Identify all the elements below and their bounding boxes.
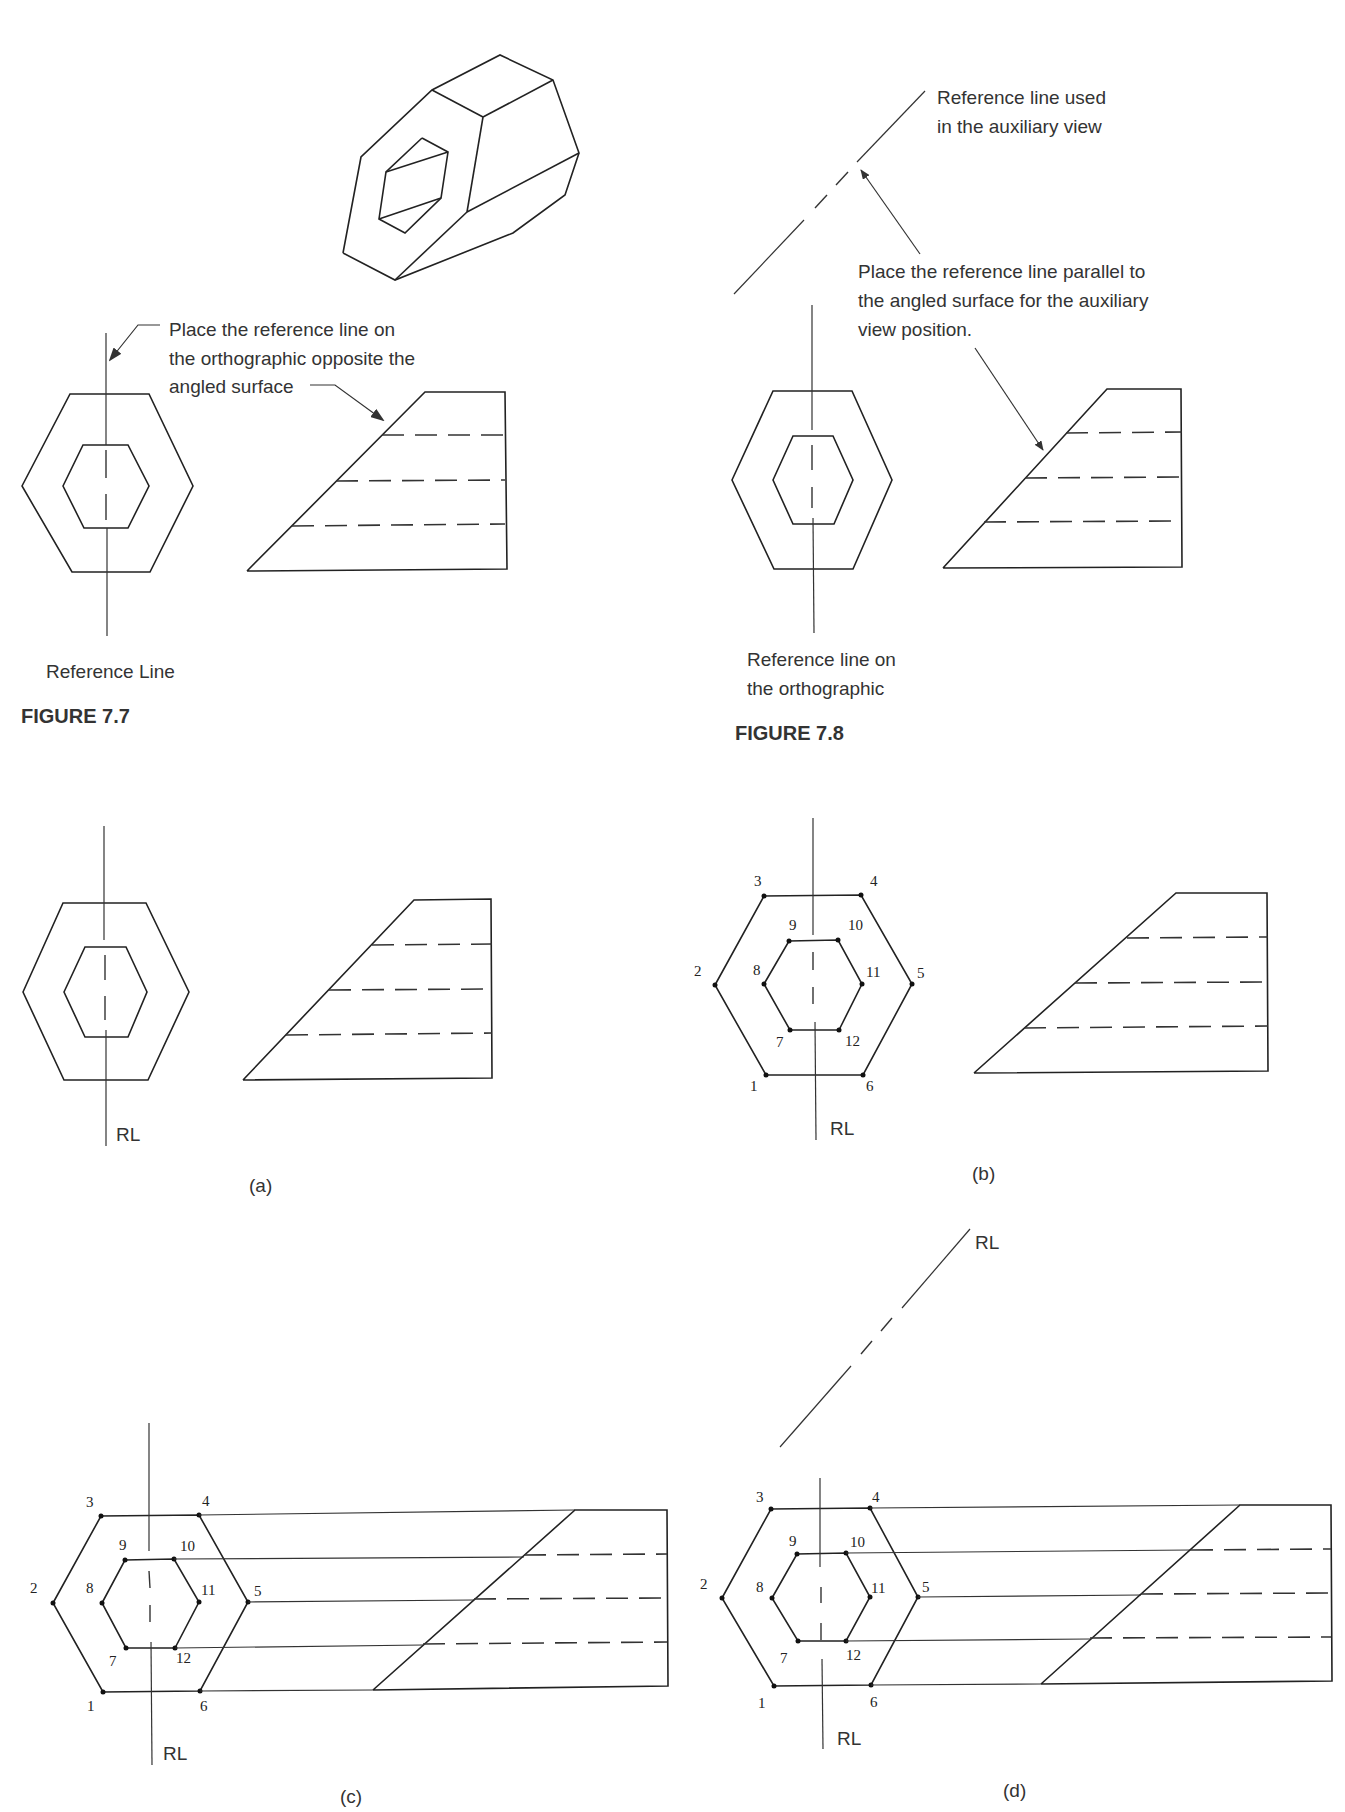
panel-b-label: (b) — [972, 1163, 995, 1185]
panel-c-point-6: 6 — [200, 1698, 208, 1715]
panel-d-aux-reference-line — [780, 1229, 970, 1447]
panel-b-point-4: 4 — [870, 873, 878, 890]
panel-d-point-11: 11 — [871, 1580, 885, 1597]
panel-c-point-9: 9 — [119, 1537, 127, 1554]
panel-b-point-9: 9 — [789, 917, 797, 934]
fig78-rl-ortho-label-line1: Reference line on — [747, 648, 896, 672]
panel-d-point-5: 5 — [922, 1579, 930, 1596]
panel-b-rl-label: RL — [830, 1118, 854, 1140]
panel-b-point-10: 10 — [848, 917, 863, 934]
isometric-hex-block — [343, 55, 579, 280]
panel-b-point-7: 7 — [776, 1034, 784, 1051]
panel-b-point-1: 1 — [750, 1078, 758, 1095]
fig78-aux-rl-label-line1: Reference line used — [937, 86, 1106, 110]
panel-d-point-2: 2 — [700, 1576, 708, 1593]
fig77-side-view — [247, 392, 507, 571]
panel-a-rl-label: RL — [116, 1124, 140, 1146]
panel-d-aux-rl-label: RL — [975, 1232, 999, 1254]
fig78-callout-line1: Place the reference line parallel to — [858, 260, 1145, 284]
fig78-callout-line3: view position. — [858, 318, 972, 342]
panel-d-point-8: 8 — [756, 1579, 764, 1596]
panel-d-front-view — [720, 1478, 921, 1749]
fig77-callout-line3: angled surface — [169, 375, 294, 399]
panel-a-side-view — [243, 899, 492, 1080]
panel-b-point-11: 11 — [866, 964, 880, 981]
panel-d-point-12: 12 — [846, 1647, 861, 1664]
panel-b-side-view — [974, 893, 1268, 1073]
panel-d-point-4: 4 — [872, 1489, 880, 1506]
panel-a-front-view — [23, 826, 189, 1146]
panel-c-point-12: 12 — [176, 1650, 191, 1667]
panel-c-rl-label: RL — [163, 1743, 187, 1765]
fig78-callout-line2: the angled surface for the auxiliary — [858, 289, 1148, 313]
fig77-callout-line2: the orthographic opposite the — [169, 347, 415, 371]
panel-b-point-12: 12 — [845, 1033, 860, 1050]
panel-c-point-3: 3 — [86, 1494, 94, 1511]
figure-7-7-caption: FIGURE 7.7 — [21, 705, 130, 728]
fig77-callout-line1: Place the reference line on — [169, 318, 395, 342]
panel-c-point-11: 11 — [201, 1582, 215, 1599]
fig78-side-view — [943, 389, 1182, 568]
panel-c-point-5: 5 — [254, 1583, 262, 1600]
fig78-rl-ortho-label-line2: the orthographic — [747, 677, 884, 701]
panel-d-side-view — [1041, 1505, 1332, 1684]
panel-d-point-10: 10 — [850, 1534, 865, 1551]
panel-d-projectors — [846, 1505, 1240, 1685]
panel-d-point-9: 9 — [789, 1533, 797, 1550]
fig78-aux-rl-label-line2: in the auxiliary view — [937, 115, 1102, 139]
panel-b-point-3: 3 — [754, 873, 762, 890]
panel-c-front-view — [51, 1423, 251, 1765]
fig77-reference-line-label: Reference Line — [46, 660, 175, 684]
panel-c-point-1: 1 — [87, 1698, 95, 1715]
panel-b-front-view — [713, 818, 915, 1140]
panel-b-point-8: 8 — [753, 962, 761, 979]
panel-d-rl-label: RL — [837, 1728, 861, 1750]
panel-d-point-6: 6 — [870, 1694, 878, 1711]
fig77-front-view — [22, 333, 193, 636]
panel-b-point-2: 2 — [694, 963, 702, 980]
panel-c-points — [51, 1513, 251, 1695]
panel-c-label: (c) — [340, 1786, 362, 1808]
panel-c-projectors — [174, 1510, 575, 1691]
panel-b-point-5: 5 — [917, 965, 925, 982]
figure-7-8-caption: FIGURE 7.8 — [735, 722, 844, 745]
panel-d-point-7: 7 — [780, 1650, 788, 1667]
panel-d-point-3: 3 — [756, 1489, 764, 1506]
panel-d-point-1: 1 — [758, 1695, 766, 1712]
panel-c-point-8: 8 — [86, 1580, 94, 1597]
panel-c-point-7: 7 — [109, 1653, 117, 1670]
panel-c-point-10: 10 — [180, 1538, 195, 1555]
fig78-front-view — [732, 305, 892, 633]
panel-c-point-4: 4 — [202, 1493, 210, 1510]
panel-d-label: (d) — [1003, 1780, 1026, 1802]
panel-b-point-6: 6 — [866, 1078, 874, 1095]
panel-c-point-2: 2 — [30, 1580, 38, 1597]
panel-a-label: (a) — [249, 1175, 272, 1197]
